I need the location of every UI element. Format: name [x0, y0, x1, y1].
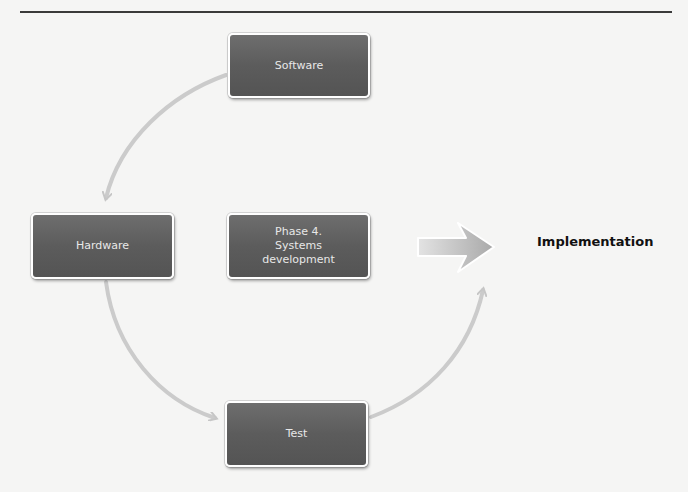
implementation-label: Implementation: [537, 234, 653, 249]
node-label: Test: [286, 427, 308, 441]
node-label: Phase 4. Systems development: [262, 225, 335, 267]
node-phase-4-systems-development: Phase 4. Systems development: [227, 213, 370, 279]
arrow-software-to-hardware: [106, 75, 226, 198]
node-test: Test: [225, 401, 368, 467]
arrow-test-to-implementation: [371, 290, 483, 417]
node-label: Hardware: [76, 239, 129, 253]
node-software: Software: [228, 33, 370, 98]
node-label: Software: [275, 59, 324, 73]
node-hardware: Hardware: [31, 213, 174, 279]
diagram-canvas: Software Hardware Phase 4. Systems devel…: [0, 0, 688, 492]
arrow-hardware-to-test: [106, 282, 215, 418]
block-arrow-icon: [418, 223, 494, 272]
